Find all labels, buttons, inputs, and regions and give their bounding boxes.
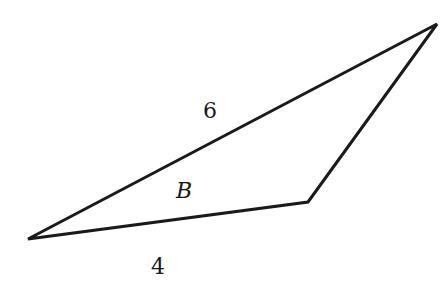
side-label-4: 4 [151,256,165,278]
triangle-shape [28,24,437,239]
triangle-svg [0,0,442,286]
side-label-6: 6 [203,100,217,122]
angle-label-b: B [176,180,192,202]
triangle-diagram: 6 B 4 [0,0,442,286]
